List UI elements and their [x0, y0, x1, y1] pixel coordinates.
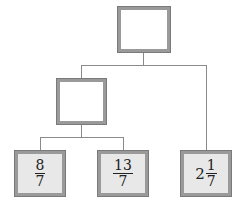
branch-to-right-leaf [206, 65, 207, 150]
fraction: 87 [35, 158, 46, 189]
middle-box[interactable] [56, 78, 107, 125]
root-branch-bar [81, 65, 207, 66]
whole-number: 2 [195, 165, 205, 183]
root-stem [143, 52, 144, 65]
branch-to-middle [81, 65, 82, 78]
branch-to-center-leaf [123, 137, 124, 150]
leaf-box-3: 217 [180, 150, 232, 197]
middle-stem [81, 124, 82, 137]
root-box[interactable] [117, 6, 171, 53]
branch-to-left-leaf [40, 137, 41, 150]
fraction: 137 [113, 158, 133, 189]
leaf-box-1: 87 [14, 150, 66, 197]
fraction: 17 [206, 158, 217, 189]
leaf-box-2: 137 [97, 150, 149, 197]
middle-branch-bar [40, 137, 124, 138]
